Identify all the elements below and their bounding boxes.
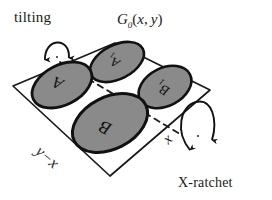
x-ratchet-annotation-label: X-ratchet bbox=[178, 176, 233, 190]
tilting-annotation-label: tilting bbox=[14, 10, 51, 25]
tilting-rotation-arrow bbox=[45, 42, 69, 60]
tilting-axis-dot bbox=[56, 56, 58, 58]
mechanism-diagram bbox=[0, 0, 272, 200]
ratchet-axis-dot bbox=[197, 135, 199, 137]
x-ratchet-rotation-arrow bbox=[181, 102, 214, 150]
g0-function-label: G0(x, y) bbox=[117, 12, 162, 30]
